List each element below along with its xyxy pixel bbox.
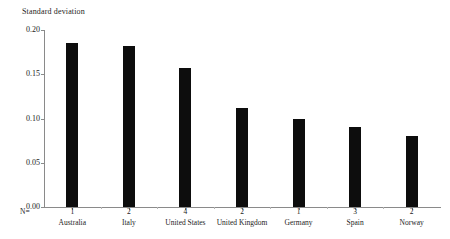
category-label: Norway bbox=[367, 218, 450, 227]
bar bbox=[406, 136, 418, 207]
x-tick-mark-minor bbox=[383, 207, 384, 209]
y-tick-label: 0.20 bbox=[0, 26, 40, 34]
bar bbox=[293, 119, 305, 208]
bars-layer bbox=[44, 30, 440, 207]
x-tick-mark-minor bbox=[270, 207, 271, 209]
bar bbox=[123, 46, 135, 207]
y-tick-label: 0.10 bbox=[0, 115, 40, 123]
n-count-value: 1 bbox=[52, 208, 92, 216]
n-count-value: 2 bbox=[222, 208, 262, 216]
n-count-value: 2 bbox=[109, 208, 149, 216]
y-tick-label: 0.15 bbox=[0, 70, 40, 78]
n-count-value: 2 bbox=[392, 208, 432, 216]
bar bbox=[179, 68, 191, 207]
bar bbox=[66, 43, 78, 207]
bar-chart: Standard deviation 0.000.050.100.150.20 … bbox=[0, 0, 450, 239]
x-tick-mark-minor bbox=[214, 207, 215, 209]
bar bbox=[236, 108, 248, 207]
n-count-value: 3 bbox=[335, 208, 375, 216]
y-tick-mark bbox=[41, 207, 45, 208]
x-tick-mark-minor bbox=[157, 207, 158, 209]
n-count-value: 4 bbox=[165, 208, 205, 216]
y-axis-title: Standard deviation bbox=[22, 7, 85, 16]
x-tick-mark-minor bbox=[101, 207, 102, 209]
n-count-value: 1 bbox=[279, 208, 319, 216]
n-count-label: N= bbox=[20, 208, 30, 216]
bar bbox=[349, 127, 361, 207]
y-tick-label: 0.05 bbox=[0, 159, 40, 167]
x-tick-mark-minor bbox=[327, 207, 328, 209]
